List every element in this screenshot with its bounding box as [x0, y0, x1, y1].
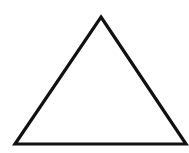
diagram-canvas: [0, 0, 189, 153]
triangle-diagram: [0, 0, 189, 153]
triangle-shape: [15, 17, 186, 144]
